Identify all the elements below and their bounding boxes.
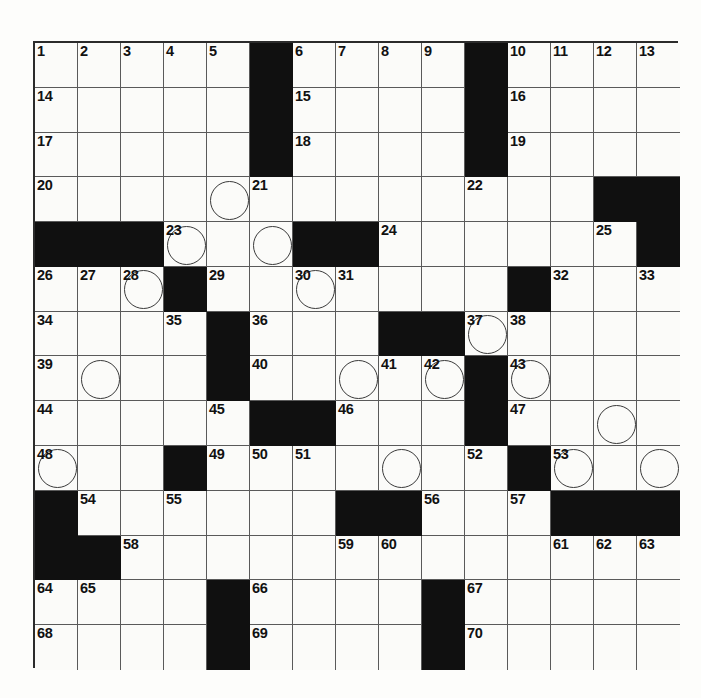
grid-cell[interactable] — [164, 536, 207, 581]
grid-cell[interactable] — [379, 401, 422, 446]
grid-cell[interactable] — [336, 356, 379, 401]
grid-cell[interactable] — [594, 625, 637, 670]
grid-cell[interactable] — [121, 446, 164, 491]
grid-cell[interactable] — [551, 312, 594, 357]
grid-cell[interactable] — [594, 580, 637, 625]
grid-cell[interactable]: 26 — [35, 267, 78, 312]
grid-cell[interactable]: 42 — [422, 356, 465, 401]
grid-cell[interactable] — [207, 222, 250, 267]
grid-cell[interactable] — [336, 88, 379, 133]
grid-cell[interactable] — [207, 133, 250, 178]
grid-cell[interactable] — [78, 133, 121, 178]
grid-cell[interactable] — [594, 446, 637, 491]
grid-cell[interactable] — [164, 88, 207, 133]
grid-cell[interactable] — [121, 580, 164, 625]
grid-cell[interactable] — [508, 625, 551, 670]
grid-cell[interactable] — [164, 356, 207, 401]
grid-cell[interactable]: 15 — [293, 88, 336, 133]
grid-cell[interactable] — [637, 356, 680, 401]
grid-cell[interactable] — [293, 580, 336, 625]
grid-cell[interactable]: 41 — [379, 356, 422, 401]
grid-cell[interactable] — [121, 177, 164, 222]
grid-cell[interactable]: 22 — [465, 177, 508, 222]
grid-cell[interactable] — [293, 625, 336, 670]
grid-cell[interactable]: 35 — [164, 312, 207, 357]
grid-cell[interactable]: 33 — [637, 267, 680, 312]
grid-cell[interactable] — [551, 88, 594, 133]
grid-cell[interactable]: 58 — [121, 536, 164, 581]
grid-cell[interactable]: 10 — [508, 43, 551, 88]
grid-cell[interactable] — [78, 625, 121, 670]
grid-cell[interactable]: 55 — [164, 491, 207, 536]
grid-cell[interactable]: 69 — [250, 625, 293, 670]
grid-cell[interactable] — [78, 88, 121, 133]
grid-cell[interactable]: 19 — [508, 133, 551, 178]
grid-cell[interactable] — [78, 446, 121, 491]
grid-cell[interactable]: 23 — [164, 222, 207, 267]
grid-cell[interactable] — [78, 312, 121, 357]
grid-cell[interactable] — [422, 177, 465, 222]
grid-cell[interactable]: 70 — [465, 625, 508, 670]
grid-cell[interactable] — [293, 177, 336, 222]
grid-cell[interactable]: 27 — [78, 267, 121, 312]
grid-cell[interactable] — [637, 446, 680, 491]
grid-cell[interactable] — [551, 580, 594, 625]
grid-cell[interactable] — [379, 177, 422, 222]
grid-cell[interactable] — [465, 536, 508, 581]
grid-cell[interactable]: 18 — [293, 133, 336, 178]
grid-cell[interactable] — [637, 625, 680, 670]
grid-cell[interactable]: 43 — [508, 356, 551, 401]
grid-cell[interactable] — [207, 88, 250, 133]
grid-cell[interactable] — [508, 222, 551, 267]
grid-cell[interactable] — [422, 536, 465, 581]
grid-cell[interactable] — [207, 536, 250, 581]
grid-cell[interactable] — [78, 401, 121, 446]
grid-cell[interactable] — [250, 222, 293, 267]
grid-cell[interactable] — [78, 177, 121, 222]
grid-cell[interactable]: 61 — [551, 536, 594, 581]
grid-cell[interactable]: 51 — [293, 446, 336, 491]
grid-cell[interactable]: 16 — [508, 88, 551, 133]
grid-cell[interactable]: 2 — [78, 43, 121, 88]
grid-cell[interactable]: 67 — [465, 580, 508, 625]
grid-cell[interactable] — [336, 446, 379, 491]
grid-cell[interactable]: 60 — [379, 536, 422, 581]
grid-cell[interactable] — [250, 491, 293, 536]
grid-cell[interactable] — [207, 177, 250, 222]
grid-cell[interactable]: 31 — [336, 267, 379, 312]
grid-cell[interactable] — [637, 312, 680, 357]
grid-cell[interactable] — [293, 312, 336, 357]
grid-cell[interactable]: 29 — [207, 267, 250, 312]
grid-cell[interactable]: 11 — [551, 43, 594, 88]
grid-cell[interactable] — [637, 133, 680, 178]
grid-cell[interactable]: 14 — [35, 88, 78, 133]
grid-cell[interactable] — [422, 446, 465, 491]
grid-cell[interactable] — [508, 536, 551, 581]
grid-cell[interactable]: 53 — [551, 446, 594, 491]
grid-cell[interactable] — [422, 222, 465, 267]
grid-cell[interactable]: 46 — [336, 401, 379, 446]
grid-cell[interactable]: 6 — [293, 43, 336, 88]
grid-cell[interactable]: 44 — [35, 401, 78, 446]
grid-cell[interactable] — [594, 401, 637, 446]
grid-cell[interactable] — [594, 356, 637, 401]
grid-cell[interactable]: 13 — [637, 43, 680, 88]
grid-cell[interactable]: 12 — [594, 43, 637, 88]
grid-cell[interactable] — [121, 88, 164, 133]
grid-cell[interactable]: 68 — [35, 625, 78, 670]
grid-cell[interactable] — [336, 177, 379, 222]
grid-cell[interactable]: 1 — [35, 43, 78, 88]
grid-cell[interactable] — [379, 580, 422, 625]
grid-cell[interactable] — [594, 88, 637, 133]
grid-cell[interactable] — [121, 356, 164, 401]
grid-cell[interactable] — [207, 491, 250, 536]
grid-cell[interactable] — [336, 580, 379, 625]
grid-cell[interactable] — [422, 267, 465, 312]
grid-cell[interactable] — [551, 625, 594, 670]
grid-cell[interactable]: 8 — [379, 43, 422, 88]
grid-cell[interactable]: 5 — [207, 43, 250, 88]
grid-cell[interactable] — [551, 133, 594, 178]
grid-cell[interactable]: 63 — [637, 536, 680, 581]
grid-cell[interactable] — [379, 446, 422, 491]
grid-cell[interactable] — [422, 401, 465, 446]
